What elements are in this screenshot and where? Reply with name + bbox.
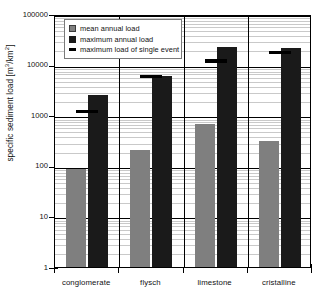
y-axis-tick-label: 1000 <box>4 112 48 120</box>
gridline-minor <box>55 93 310 94</box>
y-axis-tick-label: 100000 <box>4 11 48 19</box>
legend-item-label: mean annual load <box>80 24 140 33</box>
y-axis-tick-labels: 100000100001000100101 <box>4 0 48 304</box>
marker-maximum-single-event <box>205 59 227 62</box>
marker-maximum-single-event <box>269 51 291 54</box>
gridline-major <box>55 67 310 68</box>
y-axis-tick-label: 1 <box>4 264 48 272</box>
x-axis-tick-mark <box>311 264 312 273</box>
bar-mean-annual-load <box>130 150 150 268</box>
legend-item: maximum load of single event <box>69 45 177 55</box>
gridline-minor <box>55 78 310 79</box>
marker-maximum-single-event <box>76 110 98 113</box>
marker-maximum-single-event <box>140 75 162 78</box>
bar-mean-annual-load <box>66 169 86 267</box>
legend-swatch-gray-square-icon <box>69 25 76 32</box>
bar-maximum-annual-load <box>152 76 172 267</box>
x-axis-category-label: conglomerate <box>54 278 118 287</box>
y-axis-tick-label: 10000 <box>4 61 48 69</box>
legend-item-label: maximum load of single event <box>80 45 179 54</box>
legend: mean annual loadmaximum annual loadmaxim… <box>64 19 182 59</box>
bar-maximum-annual-load <box>217 47 237 267</box>
gridline-major <box>55 16 310 17</box>
group-separator <box>248 16 249 267</box>
gridline-minor <box>55 87 310 88</box>
gridline-minor <box>55 72 310 73</box>
chart-container: specific sediment load [m3/km2] 10000010… <box>0 0 324 304</box>
legend-swatch-black-square-icon <box>69 36 76 43</box>
y-axis-tick-label: 100 <box>4 162 48 170</box>
gridline-minor <box>55 74 310 75</box>
x-axis-category-label: limestone <box>183 278 247 287</box>
legend-item-label: maximum annual load <box>80 35 153 44</box>
legend-item: maximum annual load <box>69 34 177 44</box>
bar-mean-annual-load <box>259 141 279 267</box>
legend-item: mean annual load <box>69 24 177 34</box>
bar-maximum-annual-load <box>88 95 108 267</box>
legend-swatch-black-dash-icon <box>69 48 76 51</box>
group-separator <box>184 16 185 267</box>
gridline-minor <box>55 82 310 83</box>
y-axis-tick-label: 10 <box>4 213 48 221</box>
x-axis-category-label: flysch <box>118 278 182 287</box>
gridline-minor <box>55 69 310 70</box>
x-axis-category-label: cristalline <box>247 278 311 287</box>
bar-mean-annual-load <box>195 124 215 267</box>
bar-maximum-annual-load <box>281 48 301 267</box>
